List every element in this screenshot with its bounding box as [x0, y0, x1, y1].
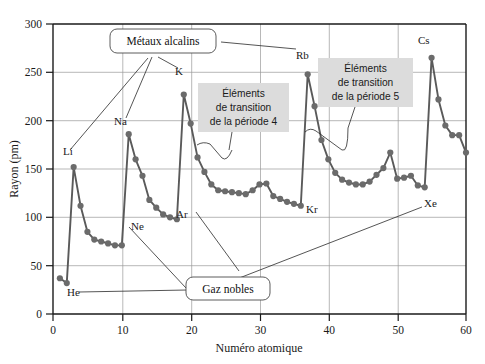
y-tick-50: 50 — [31, 260, 43, 272]
data-point — [126, 131, 132, 137]
data-point — [215, 187, 221, 193]
label-Cs: Cs — [418, 34, 430, 46]
data-point — [380, 165, 386, 171]
data-point — [305, 71, 311, 77]
callout-alkali-label: Métaux alcalins — [126, 35, 200, 47]
transition4-line2: de transition — [216, 102, 272, 113]
callout-gaz-nobles: Gaz nobles — [186, 277, 270, 300]
y-tick-300: 300 — [25, 18, 43, 30]
data-point — [236, 190, 242, 196]
data-point — [449, 132, 455, 138]
data-point — [367, 178, 373, 184]
x-tick-60: 60 — [460, 324, 472, 336]
label-K: K — [175, 65, 183, 77]
transition4-line3: de la période 4 — [210, 116, 278, 127]
chart-figure: 0 50 100 150 200 250 300 0 10 20 30 40 5… — [0, 0, 485, 364]
data-point — [401, 175, 407, 181]
y-tick-200: 200 — [25, 115, 43, 127]
data-point — [415, 182, 421, 188]
data-point — [456, 132, 462, 138]
data-point — [277, 196, 283, 202]
callout-metaux-alcalins: Métaux alcalins — [110, 29, 216, 53]
x-tick-10: 10 — [117, 324, 129, 336]
data-point — [57, 275, 63, 281]
data-point — [256, 181, 262, 187]
data-point — [181, 91, 187, 97]
data-point — [284, 199, 290, 205]
data-point — [422, 184, 428, 190]
data-point — [263, 180, 269, 186]
transition5-line1: Éléments — [344, 62, 386, 74]
data-point — [133, 156, 139, 162]
data-point — [229, 189, 235, 195]
data-point — [77, 203, 83, 209]
y-tick-150: 150 — [25, 163, 43, 175]
data-point — [91, 236, 97, 242]
x-tick-50: 50 — [392, 324, 404, 336]
data-point — [208, 181, 214, 187]
data-point — [139, 173, 145, 179]
x-tick-20: 20 — [186, 324, 198, 336]
data-point — [270, 193, 276, 199]
x-tick-30: 30 — [255, 324, 267, 336]
data-point — [119, 242, 125, 248]
data-point — [71, 164, 77, 170]
data-point — [298, 203, 304, 209]
data-point — [98, 238, 104, 244]
label-Xe: Xe — [424, 197, 437, 209]
x-tick-0: 0 — [50, 324, 56, 336]
label-Li: Li — [63, 145, 73, 157]
data-point — [153, 205, 159, 211]
data-point — [463, 149, 469, 155]
y-tick-250: 250 — [25, 66, 43, 78]
x-axis-label: Numéro atomique — [216, 341, 303, 355]
data-point — [84, 229, 90, 235]
transition4-line1: Éléments — [222, 87, 264, 99]
data-point — [353, 181, 359, 187]
label-Ar: Ar — [176, 208, 188, 220]
data-point — [339, 177, 345, 183]
data-point — [291, 201, 297, 207]
data-point — [311, 103, 317, 109]
data-point — [346, 179, 352, 185]
y-tick-0: 0 — [36, 308, 42, 320]
transition5-line2: de transition — [338, 77, 394, 88]
data-point — [442, 122, 448, 128]
data-point — [408, 173, 414, 179]
data-point — [250, 187, 256, 193]
data-point — [387, 149, 393, 155]
atomic-radius-chart: 0 50 100 150 200 250 300 0 10 20 30 40 5… — [0, 0, 485, 364]
data-point — [160, 211, 166, 217]
transition5-line3: de la période 5 — [332, 91, 400, 102]
data-point — [167, 214, 173, 220]
x-tick-40: 40 — [324, 324, 336, 336]
data-point — [222, 188, 228, 194]
label-Ne: Ne — [131, 220, 144, 232]
data-point — [194, 154, 200, 160]
data-point — [146, 197, 152, 203]
data-point — [105, 240, 111, 246]
data-point — [112, 242, 118, 248]
y-tick-100: 100 — [25, 211, 43, 223]
data-point — [332, 170, 338, 176]
data-point — [435, 96, 441, 102]
data-point — [318, 137, 324, 143]
label-He: He — [67, 286, 80, 298]
label-Kr: Kr — [306, 203, 318, 215]
data-point — [325, 156, 331, 162]
data-point — [243, 191, 249, 197]
data-point — [373, 172, 379, 178]
data-point — [201, 169, 207, 175]
callout-noble-label: Gaz nobles — [202, 283, 254, 295]
data-point — [360, 181, 366, 187]
y-axis-label: Rayon (pm) — [7, 140, 21, 198]
data-point — [394, 176, 400, 182]
data-point — [428, 55, 434, 61]
label-Rb: Rb — [296, 49, 309, 61]
label-Na: Na — [114, 115, 127, 127]
data-point — [188, 120, 194, 126]
